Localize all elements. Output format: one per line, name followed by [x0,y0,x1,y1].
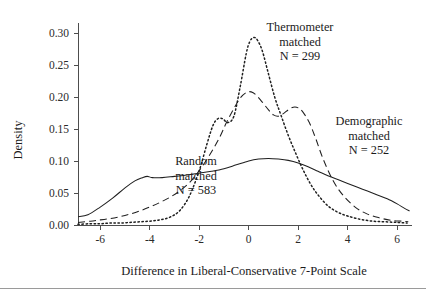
density-plot-figure: 0.000.050.100.150.200.250.30-6-4-20246 T… [0,0,426,292]
annotation-demographic: DemographicmatchedN = 252 [336,114,403,157]
annotations-group: ThermometermatchedN = 299Demographicmatc… [175,20,403,197]
annotation-random-line2: matched [175,169,217,183]
y-tick-label: 0.10 [49,155,69,167]
y-tick-label: 0.30 [49,27,69,39]
y-tick-label: 0.00 [49,219,69,231]
density-curve-solid [78,158,410,216]
density-curve-dashed [78,92,408,223]
y-tick-label: 0.05 [49,187,69,199]
annotation-thermometer-line3: N = 299 [280,49,320,63]
y-tick-label: 0.15 [49,123,69,135]
y-axis-title: Density [11,120,25,160]
annotation-demographic-line1: Demographic [336,114,403,128]
x-tick-label: 4 [345,233,351,245]
x-tick-label: -4 [145,233,155,245]
annotation-random: RandommatchedN = 583 [175,154,217,197]
annotation-thermometer-line2: matched [279,35,321,49]
annotation-random-line3: N = 583 [176,183,216,197]
annotation-demographic-line2: matched [348,129,390,143]
y-tick-label: 0.20 [49,91,69,103]
annotation-thermometer: ThermometermatchedN = 299 [267,20,334,63]
y-tick-label: 0.25 [49,59,69,71]
x-tick-label: 0 [246,233,252,245]
footer-divider [0,288,426,289]
x-tick-label: -2 [194,233,204,245]
chart-canvas: 0.000.050.100.150.200.250.30-6-4-20246 T… [0,0,426,292]
x-tick-label: -6 [95,233,105,245]
annotation-thermometer-line1: Thermometer [267,20,334,34]
annotation-demographic-line3: N = 252 [349,143,389,157]
x-axis-title: Difference in Liberal-Conservative 7-Poi… [121,264,367,278]
annotation-random-line1: Random [175,154,217,168]
x-tick-label: 6 [394,233,400,245]
x-tick-label: 2 [295,233,301,245]
